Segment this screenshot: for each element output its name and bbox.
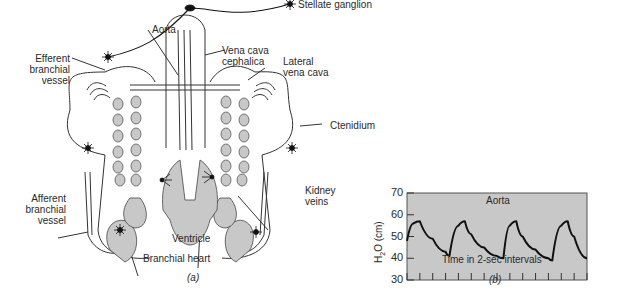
- caption-b: (b): [489, 274, 501, 285]
- ylabel-rest: O (cm): [373, 221, 384, 252]
- y-tick-label: 40: [391, 252, 403, 263]
- chart-x-axis-label: Time in 2-sec intervals: [442, 254, 542, 265]
- chart-background: [407, 193, 587, 280]
- y-tick-label: 70: [391, 187, 403, 198]
- ylabel-subscript: 2: [379, 252, 386, 256]
- ylabel-base: H: [373, 256, 384, 263]
- aortic-pressure-chart: Aorta Time in 2-sec intervals H2O (cm) 3…: [0, 0, 624, 296]
- y-tick-label: 60: [391, 209, 403, 220]
- chart-y-axis-label: H2O (cm): [373, 221, 388, 263]
- y-tick-label: 30: [391, 274, 403, 285]
- y-tick-label: 50: [391, 231, 403, 242]
- chart-title: Aorta: [486, 195, 510, 206]
- chart-plot: [0, 0, 624, 296]
